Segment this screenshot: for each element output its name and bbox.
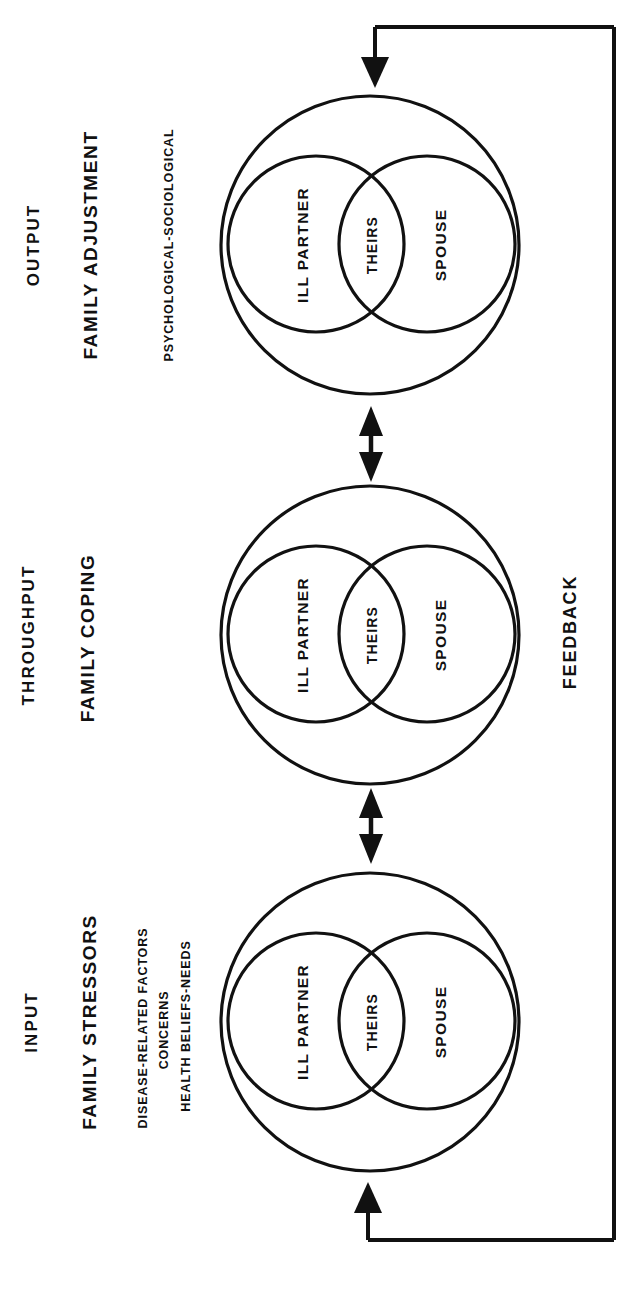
detail-label-psychological-sociological: PSYCHOLOGICAL-SOCIOLOGICAL [163,128,176,361]
venn-label-spouse: SPOUSE [433,599,449,672]
venn-label-theirs: THEIRS [365,993,379,1051]
venn-label-ill-partner: ILL PARTNER [295,964,311,1080]
stage-label-throughput: THROUGHPUT [20,565,37,706]
bidirectional-arrow-output-throughput [359,406,383,482]
detail-label-health-beliefs-needs: HEALTH BELIEFS-NEEDS [180,940,193,1111]
venn-label-spouse: SPOUSE [433,209,449,282]
venn-label-ill-partner: ILL PARTNER [295,187,311,303]
phase-label-family-stressors: FAMILY STRESSORS [80,914,99,1130]
phase-label-family-adjustment: FAMILY ADJUSTMENT [81,130,100,359]
diagram-canvas: OUTPUT FAMILY ADJUSTMENT PSYCHOLOGICAL-S… [0,0,634,1313]
stage-label-input: INPUT [23,991,40,1053]
feedback-arrowhead-up [354,1182,382,1213]
venn-label-theirs: THEIRS [365,216,379,274]
detail-label-concerns: CONCERNS [158,991,171,1070]
stage-label-output: OUTPUT [25,204,42,286]
phase-label-family-coping: FAMILY COPING [78,554,97,723]
venn-label-spouse: SPOUSE [433,986,449,1059]
venn-label-ill-partner: ILL PARTNER [295,577,311,693]
feedback-label: FEEDBACK [561,575,579,689]
bidirectional-arrow-throughput-input [359,788,383,864]
venn-label-theirs: THEIRS [365,606,379,664]
detail-label-disease-related-factors: DISEASE-RELATED FACTORS [137,928,150,1129]
feedback-arrowhead-down [361,57,389,88]
